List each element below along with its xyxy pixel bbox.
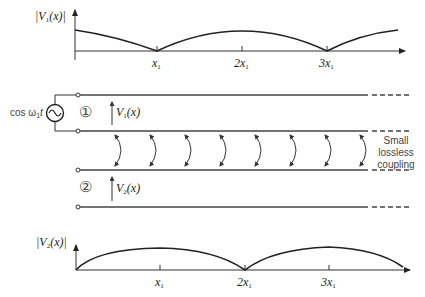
line2-voltage-label: V2(x) <box>116 182 140 196</box>
coupling-arrow-icon <box>185 135 191 166</box>
top-plot <box>75 10 405 60</box>
coupled-lines-figure <box>0 0 425 297</box>
coupling-arrow-icon <box>325 135 331 166</box>
coupling-label-line: Small <box>376 135 416 147</box>
coupling-label-line: lossless <box>376 147 416 159</box>
source-wire-bottom <box>55 122 77 131</box>
coupling-arrow-icon <box>255 135 261 166</box>
top-tick-label-2x1: 2x1 <box>234 57 249 71</box>
coupling-arrow-icon <box>290 135 296 166</box>
coupling-arrow-icon <box>150 135 156 166</box>
v1-magnitude-curve <box>75 30 398 51</box>
source-label: cos ω1t <box>10 108 43 119</box>
coupling-arrow-icon <box>115 135 121 166</box>
circuit <box>47 93 413 209</box>
source-wire-top <box>55 95 77 104</box>
top-tick-label-3x1: 3x1 <box>319 57 334 71</box>
bottom-tick-label-2x1: 2x1 <box>237 276 252 290</box>
top-plot-y-label: |V1(x)| <box>35 10 66 24</box>
coupling-arrows <box>115 135 366 166</box>
bottom-tick-label-3x1: 3x1 <box>321 276 336 290</box>
coupling-arrow-icon <box>220 135 226 166</box>
top-tick-label-x1: x1 <box>152 57 161 71</box>
bottom-tick-label-x1: x1 <box>155 276 164 290</box>
coupling-label: Small lossless coupling <box>376 135 416 171</box>
v2-magnitude-curve <box>76 247 403 270</box>
terminal-line2-top <box>76 168 80 172</box>
line1-voltage-label: V1(x) <box>116 106 140 120</box>
coupling-label-line: coupling <box>376 159 416 171</box>
line1-marker: ① <box>79 105 92 120</box>
terminal-line1-bottom <box>76 129 80 133</box>
terminal-line1-top <box>76 93 80 97</box>
bottom-plot-y-label: |V2(x)| <box>36 236 67 250</box>
coupling-arrow-icon <box>360 135 366 166</box>
line2-marker: ② <box>79 180 92 195</box>
terminal-line2-bottom <box>76 205 80 209</box>
bottom-plot <box>76 245 410 270</box>
